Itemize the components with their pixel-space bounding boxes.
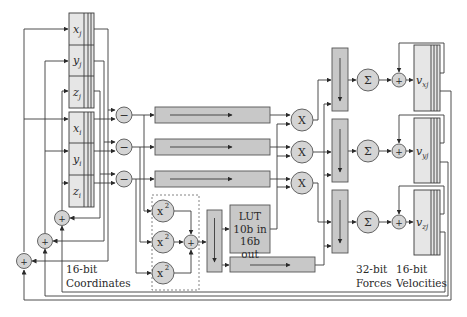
velocities-caption-line2: Velocities: [396, 276, 447, 290]
multiplier-x: X: [291, 109, 313, 131]
svg-text:Σ: Σ: [364, 216, 372, 229]
force-sum-y: Σ: [357, 140, 379, 162]
force-pipeline-y: [332, 119, 348, 182]
delay-pipeline-y: [155, 139, 270, 155]
svg-text:−: −: [119, 173, 128, 186]
svg-text:x: x: [157, 205, 164, 218]
feedback-adder-z: +: [55, 211, 70, 226]
svg-text:X: X: [298, 114, 306, 127]
velocity-adder-x: +: [392, 73, 406, 87]
svg-text:+: +: [58, 214, 66, 224]
force-pipeline-z: [332, 190, 348, 253]
velocities-caption-line1: 16-bit: [396, 262, 447, 276]
delay-pipeline-z: [155, 171, 270, 187]
multiplier-y: X: [291, 141, 313, 163]
svg-text:x: x: [157, 236, 164, 249]
svg-text:+: +: [395, 218, 403, 228]
square-y: x 2: [152, 231, 174, 253]
lut-label-line2: 10b in: [230, 223, 270, 236]
multiplier-z: X: [291, 172, 313, 194]
svg-text:+: +: [395, 147, 403, 157]
distance-pipeline: [207, 210, 222, 272]
lut-label-line3: 16b out: [230, 235, 270, 260]
velocity-adder-y: +: [392, 144, 406, 158]
svg-text:x: x: [157, 267, 164, 280]
coordinates-caption-line1: 16-bit: [66, 262, 131, 276]
svg-text:X: X: [298, 177, 306, 190]
svg-text:Σ: Σ: [364, 145, 372, 158]
velocity-adder-z: +: [392, 215, 406, 229]
force-pipeline-x: [332, 48, 348, 111]
svg-text:−: −: [119, 109, 128, 122]
velocities-caption: 16-bit Velocities: [396, 262, 447, 290]
svg-text:+: +: [41, 237, 49, 247]
subtractor-y: −: [116, 139, 132, 155]
svg-text:2: 2: [165, 264, 169, 272]
force-sum-z: Σ: [357, 211, 379, 233]
svg-text:2: 2: [165, 202, 169, 210]
square-x: x 2: [152, 200, 174, 222]
svg-text:+: +: [187, 238, 195, 248]
force-sum-x: Σ: [357, 69, 379, 91]
squared-sum-adder: +: [184, 235, 198, 249]
lut-label: LUT 10b in 16b out: [230, 210, 270, 260]
feedback-adder-x: +: [17, 254, 32, 269]
svg-text:2: 2: [165, 233, 169, 241]
forces-caption: 32-bit Forces: [356, 262, 392, 290]
delay-pipeline-x: [155, 107, 270, 123]
subtractor-z: −: [116, 171, 132, 187]
pipeline-diagram: xj yj zj xi yi zi + + + − − −: [0, 0, 467, 317]
subtractor-x: −: [116, 107, 132, 123]
forces-caption-line1: 32-bit: [356, 262, 392, 276]
forces-caption-line2: Forces: [356, 276, 392, 290]
coordinates-caption: 16-bit Coordinates: [66, 262, 131, 290]
svg-text:+: +: [395, 76, 403, 86]
square-z: x 2: [152, 262, 174, 284]
feedback-adder-y: +: [38, 234, 53, 249]
svg-text:+: +: [20, 257, 28, 267]
lut-label-line1: LUT: [230, 210, 270, 223]
svg-text:Σ: Σ: [364, 74, 372, 87]
coordinates-caption-line2: Coordinates: [66, 276, 131, 290]
svg-text:−: −: [119, 141, 128, 154]
svg-text:X: X: [298, 146, 306, 159]
